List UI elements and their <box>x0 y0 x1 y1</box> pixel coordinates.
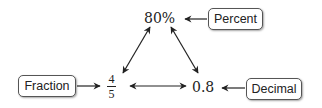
decimal-label: Decimal <box>246 78 302 100</box>
percent-value: 80% <box>144 10 175 26</box>
fraction-numerator: 4 <box>109 73 115 85</box>
fraction-label: Fraction <box>18 75 76 97</box>
fraction-denominator: 5 <box>109 88 115 100</box>
edge-percent-fraction <box>123 27 150 73</box>
fraction-value: 4 5 <box>107 73 116 100</box>
percent-label: Percent <box>208 8 263 30</box>
decimal-value: 0.8 <box>192 79 214 95</box>
edge-percent-decimal <box>171 27 198 73</box>
conversion-diagram: 80% 4 5 0.8 Percent Fraction Decimal <box>0 0 322 108</box>
